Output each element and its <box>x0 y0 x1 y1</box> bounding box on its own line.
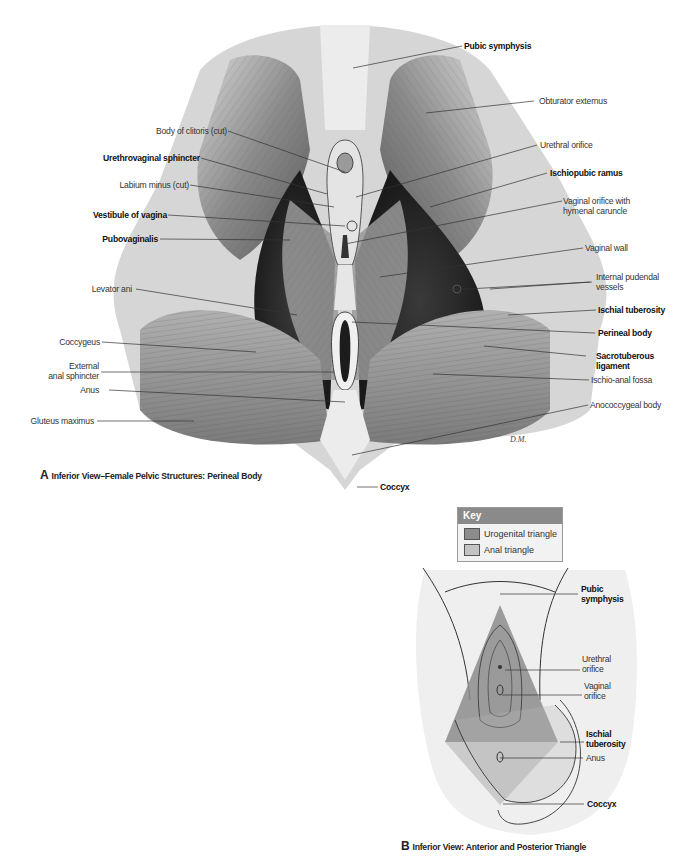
label-vestibule-of-vagina: Vestibule of vagina <box>93 210 167 220</box>
b-label-vaginal-orifice: Vaginalorifice <box>584 681 611 701</box>
label-anus: Anus <box>80 385 99 395</box>
b-label-urethral-orifice: Urethralorifice <box>582 654 611 674</box>
label-labium-minus: Labium minus (cut) <box>120 180 189 190</box>
anal-swatch <box>464 544 480 556</box>
label-perineal-body: Perineal body <box>598 328 652 338</box>
label-obturator-externus: Obturator externus <box>539 96 607 106</box>
caption-panel-a: AInferior View–Female Pelvic Structures:… <box>40 468 262 482</box>
b-label-anus: Anus <box>586 753 605 763</box>
label-coccygeus: Coccygeus <box>59 337 100 347</box>
label-coccyx: Coccyx <box>380 482 409 492</box>
label-ischiopubic-ramus: Ischiopubic ramus <box>550 168 623 178</box>
caption-panel-b: BInferior View: Anterior and Posterior T… <box>401 839 586 853</box>
legend-title: Key <box>458 508 562 524</box>
b-label-pubic-symphysis: Pubicsymphysis <box>581 584 624 604</box>
label-vaginal-orifice-hymenal-caruncle: Vaginal orifice withhymenal caruncle <box>563 196 630 216</box>
label-urethral-orifice: Urethral orifice <box>540 140 593 150</box>
legend-key: Key Urogenital triangle Anal triangle <box>457 507 563 562</box>
label-external-anal-sphincter: Externalanal sphincter <box>48 361 99 381</box>
label-internal-pudendal-vessels: Internal pudendalvessels <box>596 272 659 292</box>
b-label-coccyx: Coccyx <box>587 799 616 809</box>
label-sacrotuberous-ligament: Sacrotuberousligament <box>596 351 654 371</box>
label-pubovaginalis: Pubovaginalis <box>102 234 158 244</box>
label-ischio-anal-fossa: Ischio-anal fossa <box>591 375 652 385</box>
label-ischial-tuberosity: Ischial tuberosity <box>598 305 665 315</box>
label-body-of-clitoris: Body of clitoris (cut) <box>156 126 227 136</box>
artist-signature: D.M. <box>509 435 526 444</box>
legend-item-anal: Anal triangle <box>464 544 562 556</box>
label-levator-ani: Levator ani <box>92 284 132 294</box>
b-label-ischial-tuberosity: Ischialtuberosity <box>586 729 626 749</box>
label-urethrovaginal-sphincter: Urethrovaginal sphincter <box>103 153 200 163</box>
label-gluteus-maximus: Gluteus maximus <box>31 416 94 426</box>
label-vaginal-wall: Vaginal wall <box>585 243 628 253</box>
legend-item-urogenital: Urogenital triangle <box>464 528 562 540</box>
label-anococcygeal-body: Anococcygeal body <box>590 400 661 410</box>
label-pubic-symphysis: Pubic symphysis <box>464 41 531 51</box>
urogenital-swatch <box>464 528 480 540</box>
